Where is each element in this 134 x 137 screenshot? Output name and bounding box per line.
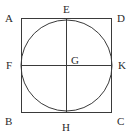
vertex-label-b: B [5,116,12,127]
geometry-figure: A E D F G K B H C [0,0,134,137]
vertex-label-c: C [117,116,124,127]
vertex-label-f: F [6,60,12,71]
vertex-label-k: K [118,60,126,71]
vertex-label-g: G [71,55,79,66]
vertex-label-e: E [63,4,70,15]
vertex-label-h: H [62,122,70,133]
geometry-canvas [0,0,134,137]
vertex-label-d: D [117,13,125,24]
vertex-label-a: A [5,13,13,24]
